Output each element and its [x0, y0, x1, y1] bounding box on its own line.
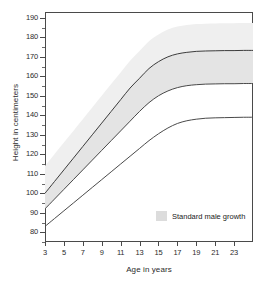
- x-tick-label: 5: [54, 248, 74, 257]
- x-tick-label: 15: [148, 248, 168, 257]
- x-major-tick: [45, 242, 46, 246]
- plot-area: [45, 12, 253, 242]
- x-tick-label: 9: [92, 248, 112, 257]
- y-axis-title: Height in centimeters: [11, 53, 20, 193]
- x-major-tick: [83, 242, 84, 246]
- y-tick-label: 120: [26, 150, 38, 158]
- x-major-tick: [121, 242, 122, 246]
- legend-swatch-standard-male-growth: [156, 211, 167, 221]
- x-tick-label: 11: [111, 248, 131, 257]
- y-tick-label: 150: [26, 92, 38, 100]
- growth-chart: 8090100110120130140150160170180190 Heigh…: [0, 0, 269, 290]
- y-tick-label: 140: [26, 111, 38, 119]
- x-tick-label: 7: [73, 248, 93, 257]
- legend: Standard male growth: [156, 211, 245, 221]
- y-tick-label: 130: [26, 131, 38, 139]
- x-major-tick: [234, 242, 235, 246]
- y-tick-label: 160: [26, 72, 38, 80]
- y-tick-label: 80: [30, 228, 38, 236]
- x-major-tick: [177, 242, 178, 246]
- x-major-tick: [140, 242, 141, 246]
- y-tick-label: 90: [30, 209, 38, 217]
- plot-canvas: [45, 12, 253, 242]
- y-tick-label: 170: [26, 53, 38, 61]
- x-major-tick: [102, 242, 103, 246]
- x-tick-label: 19: [186, 248, 206, 257]
- x-major-tick: [215, 242, 216, 246]
- x-major-tick: [158, 242, 159, 246]
- y-tick-label: 100: [26, 189, 38, 197]
- y-tick-label: 190: [26, 14, 38, 22]
- x-tick-label: 21: [205, 248, 225, 257]
- x-major-tick: [196, 242, 197, 246]
- x-tick-label: 3: [35, 248, 55, 257]
- x-tick-label: 17: [167, 248, 187, 257]
- legend-label-standard-male-growth: Standard male growth: [172, 212, 245, 221]
- y-tick-label: 110: [27, 170, 38, 178]
- x-tick-label: 13: [130, 248, 150, 257]
- x-axis: 357911131517192123 Age in years: [0, 242, 269, 290]
- x-axis-title: Age in years: [45, 265, 253, 274]
- x-major-tick: [64, 242, 65, 246]
- x-tick-label: 23: [224, 248, 244, 257]
- y-tick-label: 180: [26, 33, 38, 41]
